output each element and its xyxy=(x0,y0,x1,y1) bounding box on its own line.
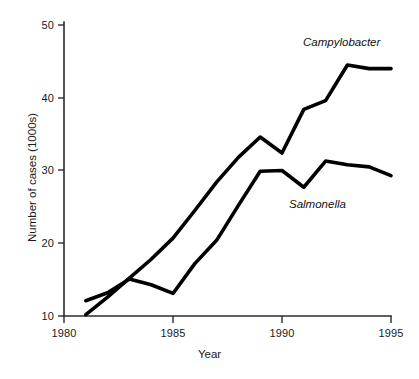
y-tick-label-40: 40 xyxy=(26,92,54,104)
x-tick-label-1995: 1995 xyxy=(365,327,417,339)
x-tick-label-1990: 1990 xyxy=(256,327,308,339)
y-tick-label-10: 10 xyxy=(26,310,54,322)
x-axis-ticks xyxy=(64,316,391,323)
series-label-campylobacter: Campylobacter xyxy=(303,36,380,48)
x-axis-title: Year xyxy=(0,348,419,360)
series-label-salmonella: Salmonella xyxy=(289,198,346,210)
chart-canvas xyxy=(0,0,419,379)
series-line-campylobacter xyxy=(86,65,391,315)
x-tick-label-1980: 1980 xyxy=(38,327,90,339)
x-tick-label-1985: 1985 xyxy=(147,327,199,339)
y-axis-title: Number of cases (1000s) xyxy=(26,113,38,242)
line-chart-figure: 50 40 30 20 10 1980 1985 1990 1995 Year … xyxy=(0,0,419,379)
y-axis-ticks xyxy=(58,25,64,316)
series-line-salmonella xyxy=(86,161,391,301)
y-tick-label-50: 50 xyxy=(26,19,54,31)
